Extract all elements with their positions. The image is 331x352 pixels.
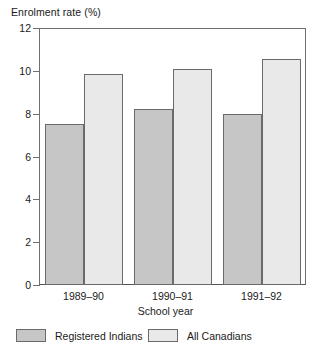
bar [134, 109, 173, 285]
y-axis-tick-label: 0 [3, 280, 31, 290]
y-axis-label-slot: 0 [0, 280, 31, 290]
legend-swatch [148, 329, 178, 342]
chart-legend: Registered IndiansAll Canadians [0, 327, 331, 349]
x-axis-title: School year [0, 305, 331, 317]
y-axis-label-slot: 6 [0, 152, 31, 162]
legend-item: Registered Indians [16, 329, 143, 342]
bar [223, 114, 262, 285]
legend-label: All Canadians [187, 330, 252, 342]
y-axis-label-slot: 12 [0, 23, 31, 33]
x-axis-tick-label: 1990–91 [128, 290, 218, 302]
y-axis-tick [33, 285, 40, 286]
legend-swatch [16, 329, 46, 342]
legend-label: Registered Indians [55, 330, 143, 342]
y-axis-tick-label: 8 [3, 109, 31, 119]
enrolment-rate-bar-chart: Enrolment rate (%) 121086420 1989–901990… [0, 0, 331, 352]
bar [262, 59, 301, 285]
x-axis-tick-label: 1991–92 [217, 290, 307, 302]
legend-item: All Canadians [148, 329, 252, 342]
y-axis-tick-label: 12 [3, 23, 31, 33]
y-axis-tick-label: 4 [3, 194, 31, 204]
y-axis-title: Enrolment rate (%) [11, 6, 101, 18]
y-axis-label-slot: 8 [0, 109, 31, 119]
x-axis-tick-label: 1989–90 [39, 290, 129, 302]
y-axis-label-slot: 10 [0, 66, 31, 76]
y-axis-tick-label: 2 [3, 237, 31, 247]
y-axis-tick-label: 10 [3, 66, 31, 76]
bars-layer [39, 28, 306, 285]
y-axis-label-slot: 2 [0, 237, 31, 247]
y-axis-tick-label: 6 [3, 152, 31, 162]
y-axis-label-slot: 4 [0, 194, 31, 204]
bar [84, 74, 123, 285]
bar [173, 69, 212, 285]
bar [45, 124, 84, 285]
